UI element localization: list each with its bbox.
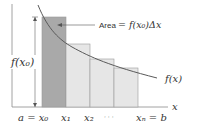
area-label-prefix: Area — [99, 21, 116, 30]
rect-4 — [114, 68, 138, 107]
area-label-formula: = f(x₀)Δx — [118, 19, 162, 30]
tick-label-x1: x₁ — [61, 112, 71, 123]
x-axis-label: x — [172, 101, 178, 112]
tick-label-x2: x₂ — [84, 112, 94, 123]
rect-3 — [90, 59, 114, 107]
tick-label-x0: a = x₀ — [18, 112, 48, 123]
curve-label: f(x) — [164, 73, 182, 84]
height-label: f(x₀) — [10, 56, 34, 69]
rect-2 — [66, 44, 90, 107]
riemann-sum-diagram: f(x₀) Area = f(x₀)Δx f(x) x a = x₀ x₁ x₂… — [0, 0, 200, 130]
arrow-up-icon — [33, 17, 37, 21]
rect-1-dark — [42, 17, 66, 107]
tick-label-dots: · · · — [104, 113, 114, 120]
tick-label-xn: xₙ = b — [136, 112, 167, 123]
arrow-down-icon — [33, 103, 37, 107]
